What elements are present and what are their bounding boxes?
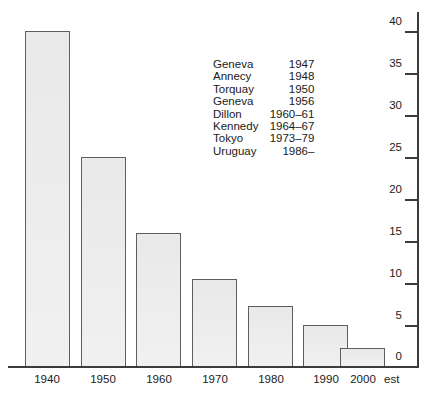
y-tick-label-5: 5 [372,309,402,321]
bar-chart: 40 35 30 25 20 15 10 5 0 1940 1950 1960 … [0,0,431,393]
bar-fill [82,158,125,366]
y-tick-5 [405,325,418,327]
y-tick-label-10: 10 [372,267,402,279]
y-tick-35 [405,73,418,75]
y-tick-label-40: 40 [372,15,402,27]
round-years: 1973–79 [258,132,314,144]
y-tick-label-25: 25 [372,141,402,153]
bar-fill [137,234,180,366]
round-name: Annecy [213,70,258,82]
table-row: Dillon 1960–61 [213,108,314,120]
y-tick-10 [405,283,418,285]
table-row: Annecy 1948 [213,70,314,82]
round-years: 1948 [258,70,314,82]
round-years: 1950 [258,83,314,95]
table-row: Uruguay 1986– [213,145,314,157]
table-row: Kennedy 1964–67 [213,120,314,132]
round-years: 1947 [258,58,314,70]
plot-area: 40 35 30 25 20 15 10 5 0 1940 1950 1960 … [0,0,431,393]
y-tick-label-20: 20 [372,183,402,195]
bar-1980 [248,306,293,367]
x-tick-label-1960: 1960 [132,372,186,386]
bar-fill [249,307,292,366]
trade-rounds-table: Geneva 1947 Annecy 1948 Torquay 1950 Gen… [213,58,314,157]
round-name: Uruguay [213,145,258,157]
y-tick-20 [405,199,418,201]
bar-fill [193,280,236,366]
bar-fill [26,32,69,366]
y-tick-15 [405,241,418,243]
round-years: 1960–61 [258,108,314,120]
x-tick-label-1950: 1950 [76,372,130,386]
y-tick-40 [405,31,418,33]
x-axis-note-est: est [384,372,399,386]
round-name: Geneva [213,95,258,107]
table-row: Tokyo 1973–79 [213,132,314,144]
x-tick-label-1940: 1940 [20,372,74,386]
round-name: Geneva [213,58,258,70]
round-name: Kennedy [213,120,258,132]
bar-1960 [136,233,181,367]
x-axis-line [8,366,419,368]
y-axis-line [417,12,419,367]
round-name: Dillon [213,108,258,120]
bar-1950 [81,157,126,367]
round-years: 1956 [258,95,314,107]
x-tick-label-2000: 2000 [336,372,390,386]
y-tick-label-35: 35 [372,57,402,69]
table-row: Torquay 1950 [213,83,314,95]
round-name: Tokyo [213,132,258,144]
y-tick-30 [405,115,418,117]
round-name: Torquay [213,83,258,95]
y-tick-label-0: 0 [372,350,402,362]
x-tick-label-1970: 1970 [188,372,242,386]
table-row: Geneva 1956 [213,95,314,107]
y-tick-label-15: 15 [372,225,402,237]
round-years: 1964–67 [258,120,314,132]
y-tick-label-30: 30 [372,99,402,111]
round-years: 1986– [258,145,314,157]
bar-1970 [192,279,237,367]
y-tick-25 [405,157,418,159]
x-tick-label-1980: 1980 [244,372,298,386]
table-row: Geneva 1947 [213,58,314,70]
bar-1940 [25,31,70,367]
